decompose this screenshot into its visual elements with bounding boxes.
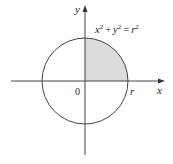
- y-axis-arrow-icon: [83, 5, 88, 12]
- radius-label: r: [130, 85, 135, 97]
- circle-equation: x2+y2=r2: [94, 23, 139, 35]
- x-axis-arrow-icon: [158, 79, 165, 84]
- x-axis-label: x: [156, 84, 162, 96]
- y-axis-label: y: [74, 3, 80, 15]
- origin-label: 0: [75, 86, 80, 97]
- shaded-quarter-region: [85, 38, 128, 81]
- circle-diagram: y x 0 r x2+y2=r2: [0, 0, 173, 164]
